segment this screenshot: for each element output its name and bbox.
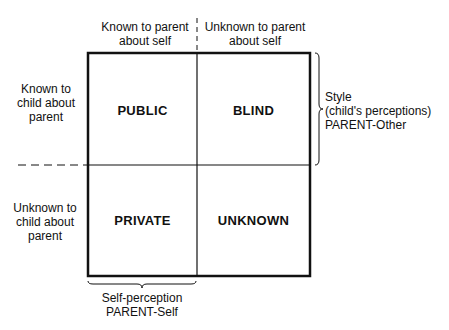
quadrant-private: PRIVATE [88, 213, 197, 228]
bottom-brace [88, 281, 196, 288]
label-line: PARENT-Other [325, 118, 431, 132]
quadrant-unknown: UNKNOWN [197, 213, 310, 228]
label-line: Known to [8, 82, 84, 96]
label-line: child about [4, 215, 86, 229]
label-line: Unknown to parent [200, 20, 310, 34]
label-line: Style [325, 90, 431, 104]
johari-window-lines [0, 0, 449, 330]
label-line: about self [95, 34, 195, 48]
quadrant-blind: BLIND [197, 103, 310, 118]
label-line: (child's perceptions) [325, 104, 431, 118]
quadrant-public: PUBLIC [88, 103, 197, 118]
top-label-known-to-parent: Known to parent about self [95, 20, 195, 48]
label-line: parent [4, 229, 86, 243]
top-label-unknown-to-parent: Unknown to parent about self [200, 20, 310, 48]
right-brace-label: Style (child's perceptions) PARENT-Other [325, 90, 431, 132]
side-label-unknown-to-child: Unknown to child about parent [4, 201, 86, 243]
label-line: about self [200, 34, 310, 48]
label-line: Self-perception [88, 291, 196, 305]
label-line: child about [8, 96, 84, 110]
bottom-brace-label: Self-perception PARENT-Self [88, 291, 196, 319]
label-line: PARENT-Self [88, 305, 196, 319]
label-line: Unknown to [4, 201, 86, 215]
side-label-known-to-child: Known to child about parent [8, 82, 84, 124]
label-line: parent [8, 110, 84, 124]
label-line: Known to parent [95, 20, 195, 34]
right-brace [315, 53, 323, 165]
